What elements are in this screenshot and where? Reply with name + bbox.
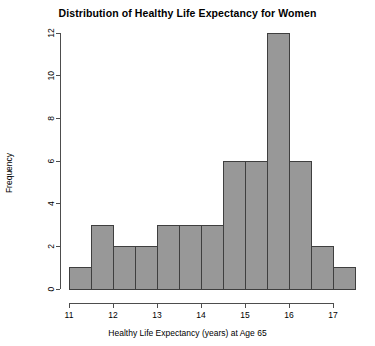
histogram-bar [311,246,333,289]
histogram-chart: Distribution of Healthy Life Expectancy … [0,0,375,346]
y-axis-tick-label: 8 [46,116,56,121]
y-axis-tick-label: 0 [46,286,56,291]
histogram-bar [267,33,289,289]
y-axis-tick-label: 10 [46,71,56,81]
plot-area: 024681012 11121314151617 [0,0,375,346]
histogram-bar [91,225,113,289]
x-axis-tick-label: 16 [284,310,294,320]
histogram-bar [69,268,91,289]
histogram-bar [201,225,223,289]
histogram-bar [157,225,179,289]
y-axis-tick-label: 2 [46,244,56,249]
x-axis-tick-label: 11 [65,310,74,320]
histogram-bar [113,246,135,289]
y-axis-tick-label: 6 [46,158,56,163]
x-axis-tick-label: 15 [240,310,250,320]
bars-group [69,33,355,289]
histogram-bar [179,225,201,289]
x-axis-tick-label: 17 [328,310,338,320]
y-axis: 024681012 [46,28,60,291]
histogram-bar [245,161,267,289]
histogram-bar [135,246,157,289]
x-axis: 11121314151617 [65,303,338,320]
histogram-bar [289,161,311,289]
x-axis-tick-label: 12 [108,310,118,320]
x-axis-tick-label: 13 [152,310,162,320]
histogram-bar [333,268,355,289]
x-axis-tick-label: 14 [196,310,206,320]
y-axis-tick-label: 12 [46,28,56,38]
histogram-bar [223,161,245,289]
y-axis-tick-label: 4 [46,201,56,206]
